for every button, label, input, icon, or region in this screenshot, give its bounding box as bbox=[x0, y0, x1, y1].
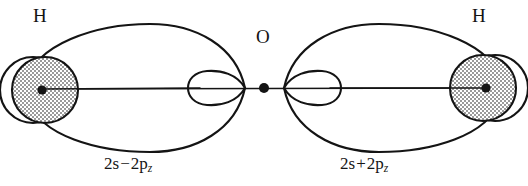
left-hydrogen-nucleus-dot bbox=[37, 85, 46, 94]
orbital-diagram-figure: H H O 2s−2pz 2s+2pz bbox=[0, 0, 528, 186]
right-caption-subscript: z bbox=[384, 162, 389, 175]
left-caption-prefix: 2s bbox=[104, 154, 119, 173]
right-hydrogen-nucleus-dot bbox=[481, 83, 490, 92]
right-caption-prefix: 2s bbox=[340, 154, 355, 173]
hydrogen-left-label: H bbox=[33, 6, 47, 25]
right-caption-operator: + bbox=[355, 154, 367, 173]
right-caption-base: 2p bbox=[367, 154, 384, 173]
left-caption-subscript: z bbox=[148, 162, 153, 175]
hydrogen-right-label: H bbox=[472, 6, 486, 25]
left-orbital-caption: 2s−2pz bbox=[104, 155, 152, 175]
right-orbital-caption: 2s+2pz bbox=[340, 155, 388, 175]
oxygen-nucleus-dot bbox=[259, 83, 269, 93]
bond-axis-left-segment bbox=[42, 88, 200, 89]
oxygen-label: O bbox=[256, 27, 270, 46]
left-caption-base: 2p bbox=[131, 154, 148, 173]
left-caption-operator: − bbox=[119, 154, 131, 173]
